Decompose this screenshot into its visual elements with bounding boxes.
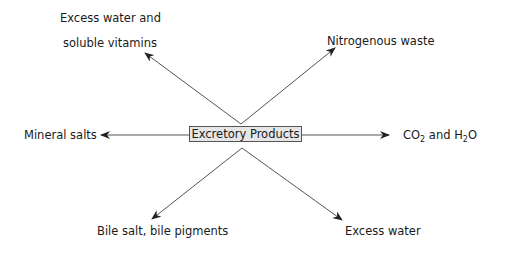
center-node: Excretory Products (189, 126, 302, 142)
arrow-lower-left (152, 148, 242, 219)
arrow-upper-right (241, 48, 335, 124)
label-right: CO2 and H2O (403, 128, 477, 142)
co-text: CO (403, 128, 420, 142)
o-text: O (468, 128, 477, 142)
label-lower-left: Bile salt, bile pigments (97, 224, 228, 238)
label-lower-right: Excess water (345, 224, 421, 238)
arrow-upper-left (145, 53, 241, 124)
label-left: Mineral salts (24, 128, 97, 142)
label-upper-right: Nitrogenous waste (327, 34, 434, 48)
label-upper-left-line2: soluble vitamins (63, 36, 157, 50)
center-label: Excretory Products (191, 127, 299, 141)
label-upper-left-line1: Excess water and (60, 11, 161, 25)
and-h-text: and H (425, 128, 463, 142)
arrow-lower-right (242, 148, 342, 220)
